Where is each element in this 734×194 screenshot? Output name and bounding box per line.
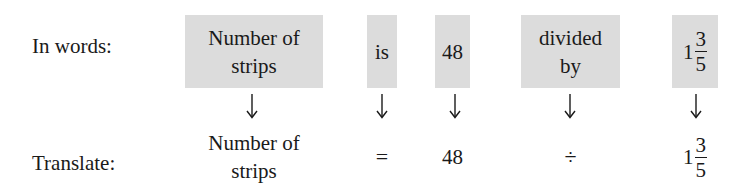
words-box-mixed-number: 1 3 5 bbox=[672, 15, 718, 88]
mixed-number: 1 3 5 bbox=[683, 134, 707, 181]
down-arrow-icon bbox=[448, 93, 462, 119]
words-box-number-of-strips: Number of strips bbox=[185, 15, 323, 88]
division-sign: ÷ bbox=[521, 124, 620, 190]
fraction-denominator: 5 bbox=[696, 159, 707, 181]
translate-text-line: strips bbox=[208, 157, 300, 185]
fraction: 3 5 bbox=[695, 28, 708, 75]
translate-text-line: Number of bbox=[208, 129, 300, 157]
equals-symbol: = bbox=[376, 143, 388, 171]
down-arrow-icon bbox=[245, 93, 259, 119]
translate-48: 48 bbox=[435, 124, 470, 190]
words-box-divided-by: divided by bbox=[521, 15, 620, 88]
translate-label: Translate: bbox=[32, 153, 115, 174]
mixed-number: 1 3 5 bbox=[683, 28, 707, 75]
translate-mixed-number: 1 3 5 bbox=[672, 124, 718, 190]
words-text-line: strips bbox=[208, 52, 300, 80]
words-text-line: by bbox=[539, 52, 602, 80]
down-arrow-icon bbox=[689, 93, 703, 119]
in-words-label: In words: bbox=[32, 36, 112, 57]
words-text-line: divided bbox=[539, 24, 602, 52]
down-arrow-icon bbox=[375, 93, 389, 119]
words-text-is: is bbox=[375, 38, 389, 66]
equals-sign: = bbox=[367, 124, 397, 190]
down-arrow-icon bbox=[563, 93, 577, 119]
words-box-is: is bbox=[367, 15, 397, 88]
translate-value-48: 48 bbox=[442, 143, 463, 171]
mixed-number-whole: 1 bbox=[683, 143, 694, 171]
fraction-numerator: 3 bbox=[695, 28, 708, 50]
fraction: 3 5 bbox=[695, 134, 708, 181]
words-text-48: 48 bbox=[442, 38, 463, 66]
words-box-48: 48 bbox=[435, 15, 470, 88]
fraction-denominator: 5 bbox=[696, 53, 707, 75]
words-text-line: Number of bbox=[208, 24, 300, 52]
translate-number-of-strips: Number of strips bbox=[185, 124, 323, 190]
division-symbol: ÷ bbox=[564, 143, 576, 171]
fraction-numerator: 3 bbox=[695, 134, 708, 156]
mixed-number-whole: 1 bbox=[683, 38, 694, 66]
